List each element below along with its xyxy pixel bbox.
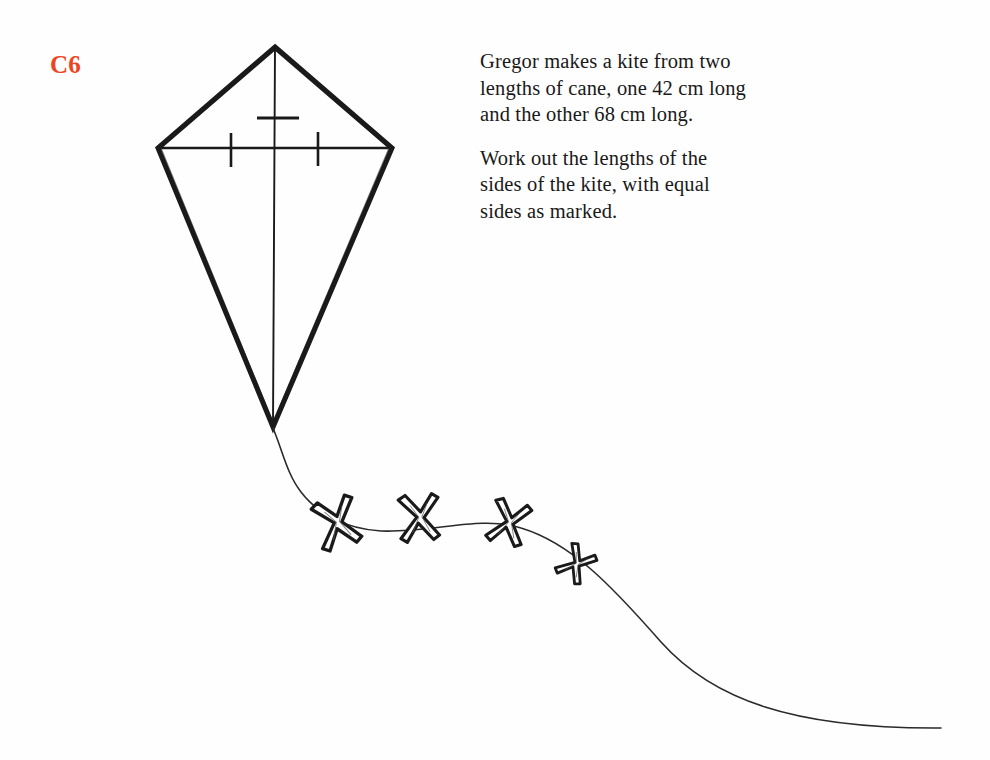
- text-line: sides as marked.: [480, 198, 840, 225]
- problem-text: Gregor makes a kite from two lengths of …: [480, 48, 840, 224]
- tail-bow-2: [398, 493, 441, 543]
- worksheet-page: C6: [0, 0, 990, 760]
- tail-bow-4: [553, 541, 598, 588]
- problem-paragraph-intro: Gregor makes a kite from two lengths of …: [480, 48, 840, 128]
- problem-paragraph-task: Work out the lengths of the sides of the…: [480, 145, 840, 225]
- text-line: Gregor makes a kite from two: [480, 48, 840, 75]
- tail-group: [273, 428, 941, 728]
- vertical-spar: [273, 47, 275, 427]
- text-line: and the other 68 cm long.: [480, 101, 840, 128]
- tail-bow-1: [310, 493, 364, 552]
- tail-string: [273, 428, 941, 728]
- text-line: lengths of cane, one 42 cm long: [480, 75, 840, 102]
- text-line: sides of the kite, with equal: [480, 171, 840, 198]
- text-line: Work out the lengths of the: [480, 145, 840, 172]
- kite-group: [158, 47, 393, 427]
